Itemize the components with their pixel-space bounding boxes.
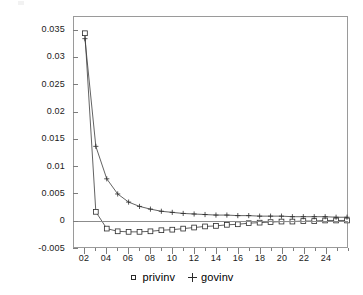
data-point-privinv xyxy=(181,226,186,231)
data-point-govinv xyxy=(257,214,262,219)
x-axis-tick-label: 24 xyxy=(321,254,331,263)
x-axis-minor-tick xyxy=(205,248,206,251)
x-axis-minor-tick xyxy=(293,248,294,251)
x-axis-tick-label: 20 xyxy=(277,254,287,263)
data-point-govinv xyxy=(235,213,240,218)
data-point-privinv xyxy=(115,229,120,234)
data-point-govinv xyxy=(224,212,229,217)
data-point-govinv xyxy=(137,204,142,209)
data-point-privinv xyxy=(126,229,131,234)
x-axis-minor-tick xyxy=(337,248,338,251)
x-axis-tick-label: 14 xyxy=(211,254,221,263)
y-axis-tick xyxy=(73,57,78,58)
y-axis-tick xyxy=(73,193,78,194)
data-point-govinv xyxy=(104,176,109,181)
data-point-privinv xyxy=(192,225,197,230)
data-point-privinv xyxy=(159,228,164,233)
chart-container: 0.0350.030.0250.020.0150.010.0050-0.005 … xyxy=(0,0,363,295)
y-axis-tick xyxy=(73,248,78,249)
x-axis-minor-tick xyxy=(348,248,349,251)
x-axis-tick-label: 04 xyxy=(101,254,111,263)
y-axis-tick xyxy=(73,221,78,222)
data-point-govinv xyxy=(246,213,251,218)
data-point-privinv xyxy=(104,226,109,231)
data-point-privinv xyxy=(93,209,98,214)
x-axis-tick-label: 16 xyxy=(233,254,243,263)
data-point-govinv xyxy=(181,211,186,216)
square-marker-icon xyxy=(130,273,139,282)
legend-label-govinv: govinv xyxy=(201,271,233,283)
legend-item-govinv[interactable]: govinv xyxy=(188,271,233,283)
y-axis-tick-label: 0.015 xyxy=(41,134,65,143)
y-axis-tick xyxy=(73,166,78,167)
data-point-privinv xyxy=(203,224,208,229)
data-point-govinv xyxy=(148,207,153,212)
y-axis-tick xyxy=(73,112,78,113)
y-axis-tick-label: 0.035 xyxy=(41,25,65,34)
y-axis-tick xyxy=(73,84,78,85)
data-point-govinv xyxy=(192,211,197,216)
plot-area xyxy=(73,16,348,248)
x-axis-minor-tick xyxy=(161,248,162,251)
x-axis-tick-label: 06 xyxy=(123,254,133,263)
x-axis-minor-tick xyxy=(271,248,272,251)
y-axis-tick-label: 0.02 xyxy=(47,107,65,116)
data-point-privinv xyxy=(137,229,142,234)
data-point-govinv xyxy=(202,212,207,217)
data-point-govinv xyxy=(213,212,218,217)
data-point-privinv xyxy=(148,229,153,234)
x-axis-tick-label: 10 xyxy=(167,254,177,263)
data-point-govinv xyxy=(279,214,284,219)
chart-legend: privinv govinv xyxy=(0,271,363,283)
x-axis-tick-label: 08 xyxy=(145,254,155,263)
data-point-govinv xyxy=(159,209,164,214)
legend-item-privinv[interactable]: privinv xyxy=(130,271,176,283)
x-axis-minor-tick xyxy=(183,248,184,251)
x-axis-tick-label: 12 xyxy=(189,254,199,263)
data-point-govinv xyxy=(93,144,98,149)
y-axis-tick-label: 0 xyxy=(60,216,65,225)
series-layer xyxy=(74,17,347,247)
x-axis-minor-tick xyxy=(249,248,250,251)
data-point-govinv xyxy=(268,214,273,219)
y-axis-tick xyxy=(73,139,78,140)
x-axis-minor-tick xyxy=(139,248,140,251)
x-axis-minor-tick xyxy=(117,248,118,251)
data-point-privinv xyxy=(170,227,175,232)
x-axis-tick-label: 22 xyxy=(299,254,309,263)
plus-marker-icon xyxy=(188,273,197,282)
zero-reference-line xyxy=(73,221,348,222)
y-axis-tick-label: -0.005 xyxy=(38,244,65,253)
x-axis-tick-label: 18 xyxy=(255,254,265,263)
x-axis-minor-tick xyxy=(315,248,316,251)
x-axis-tick-label: 02 xyxy=(79,254,89,263)
data-point-privinv xyxy=(224,222,229,227)
plot-inner xyxy=(74,17,347,247)
y-axis-tick xyxy=(73,30,78,31)
data-point-govinv xyxy=(82,36,87,41)
data-point-govinv xyxy=(170,210,175,215)
data-point-privinv xyxy=(214,224,219,229)
data-point-govinv xyxy=(290,214,295,219)
y-axis-tick-label: 0.01 xyxy=(47,162,65,171)
series-line-govinv xyxy=(85,39,347,218)
data-point-privinv xyxy=(235,222,240,227)
y-axis: 0.0350.030.0250.020.0150.010.0050-0.005 xyxy=(0,0,73,295)
legend-label-privinv: privinv xyxy=(143,271,176,283)
x-axis-minor-tick xyxy=(227,248,228,251)
x-axis-minor-tick xyxy=(95,248,96,251)
series-line-privinv xyxy=(85,33,347,232)
data-point-privinv xyxy=(83,31,88,36)
y-axis-tick-label: 0.005 xyxy=(41,189,65,198)
y-axis-tick-label: 0.03 xyxy=(47,52,65,61)
y-axis-tick-label: 0.025 xyxy=(41,80,65,89)
